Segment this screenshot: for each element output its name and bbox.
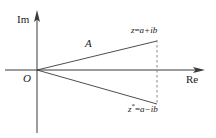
z-point-label: z=a+ib: [131, 26, 157, 35]
origin-label: O: [23, 73, 31, 84]
vector-to-z-conjugate: [37, 70, 157, 104]
argand-diagram: Im Re O A z=a+ib z*=a−ib: [0, 0, 216, 138]
imaginary-axis-label: Im: [17, 14, 29, 25]
magnitude-label: A: [85, 38, 92, 49]
z-conjugate-value: a−ib: [140, 104, 158, 114]
vector-to-z: [37, 41, 157, 70]
z-value: a+ib: [140, 25, 158, 35]
diagram-canvas: [0, 0, 216, 138]
real-axis-label: Re: [186, 74, 198, 85]
z-conjugate-point-label: z*=a−ib: [128, 105, 158, 114]
